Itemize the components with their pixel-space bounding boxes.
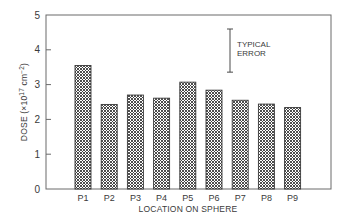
y-tick-label: 2 [34,114,40,125]
x-axis-title: LOCATION ON SPHERE [139,204,238,214]
bar-p3 [127,95,143,189]
x-tick-label-p6: P6 [208,193,219,203]
bar-p4 [154,98,170,189]
y-axis-ticks: 012345 [34,10,51,195]
bar-p5 [180,82,196,189]
x-tick-label-p8: P8 [261,193,272,203]
bar-p9 [285,108,301,189]
y-tick-label: 0 [34,184,40,195]
x-tick-label-p9: P9 [287,193,298,203]
y-tick-label: 1 [34,149,40,160]
dose-bar-chart: 012345 P1P2P3P4P5P6P7P8P9 TYPICAL ERROR … [0,0,347,221]
x-axis-category-labels: P1P2P3P4P5P6P7P8P9 [77,193,298,203]
y-axis-title: DOSE (×1017 cm−2) [18,63,29,141]
bar-p1 [75,65,91,189]
x-tick-label-p5: P5 [182,193,193,203]
y-tick-label: 3 [34,79,40,90]
y-tick-label: 4 [34,44,40,55]
bar-p8 [258,104,274,189]
y-tick-label: 5 [34,10,40,21]
x-tick-label-p3: P3 [130,193,141,203]
bar-p7 [232,100,248,189]
annotation-line2: ERROR [237,49,266,58]
bar-p2 [101,104,117,189]
x-tick-label-p7: P7 [235,193,246,203]
bar-p6 [206,90,222,189]
x-tick-label-p1: P1 [77,193,88,203]
x-tick-label-p2: P2 [104,193,115,203]
annotation-line1: TYPICAL [237,40,271,49]
typical-error-annotation: TYPICAL ERROR [227,29,271,72]
bars [75,65,301,189]
x-tick-label-p4: P4 [156,193,167,203]
